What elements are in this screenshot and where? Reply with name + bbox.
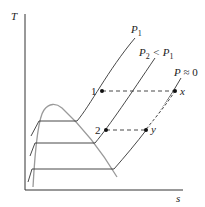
ts-diagram: T s 1 2 x y P1 P2 < P1 P ≈ 0 <box>0 0 205 207</box>
point-1-label: 1 <box>91 85 97 97</box>
point-2 <box>104 128 108 132</box>
isobar-p1 <box>31 38 135 136</box>
point-1 <box>100 89 104 93</box>
point-x-label: x <box>179 85 185 97</box>
point-y <box>144 128 148 132</box>
x-axis-label: s <box>176 192 180 204</box>
isobar-p1-label: P1 <box>130 23 142 38</box>
isobar-p2-label: P2 < P1 <box>138 46 173 61</box>
point-x <box>173 89 177 93</box>
isobar-p0-label: P ≈ 0 <box>173 66 198 78</box>
point-y-label: y <box>150 123 156 135</box>
point-2-label: 2 <box>95 124 101 136</box>
y-axis-label: T <box>11 10 18 22</box>
saturation-dome <box>33 104 117 187</box>
